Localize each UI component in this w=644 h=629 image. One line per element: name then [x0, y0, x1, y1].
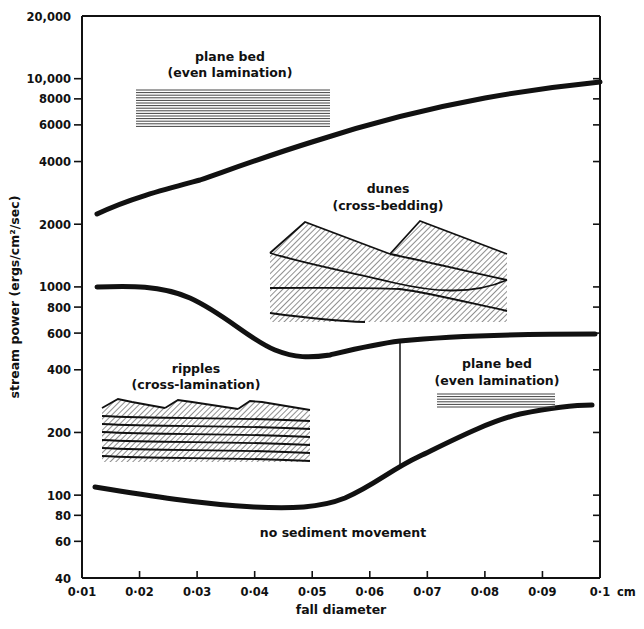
- dunes-cross-bedding-icon: [268, 218, 510, 324]
- upper-plane-bed-title: plane bed: [195, 49, 265, 64]
- y-tick-label: 2000: [39, 218, 71, 232]
- y-tick-label: 100: [47, 489, 71, 503]
- x-tick-label: 0·1: [590, 585, 610, 599]
- y-tick-label: 8000: [39, 92, 71, 106]
- y-tick-label: 10,000: [27, 72, 71, 86]
- x-tick-label: 0·09: [528, 585, 556, 599]
- region-label-lower-plane-bed: plane bed (even lamination): [435, 356, 560, 388]
- x-tick-label: 0·02: [125, 585, 153, 599]
- dunes-subtitle: (cross-bedding): [332, 198, 443, 213]
- x-axis-ticks: 0·010·020·030·040·050·060·070·080·090·1: [68, 571, 610, 599]
- x-tick-label: 0·07: [413, 585, 441, 599]
- y-tick-label: 80: [55, 509, 71, 523]
- y-tick-label: 4000: [39, 155, 71, 169]
- upper-boundary-curve: [97, 82, 600, 214]
- lower-plane-bed-subtitle: (even lamination): [435, 373, 560, 388]
- x-tick-label: 0·06: [356, 585, 384, 599]
- x-tick-label: 0·01: [68, 585, 96, 599]
- region-label-no-sediment-movement: no sediment movement: [260, 525, 426, 540]
- bedform-stability-chart: 20,00010,0008000600040002000100080060040…: [0, 0, 644, 629]
- x-tick-label: 0·08: [471, 585, 499, 599]
- region-label-upper-plane-bed: plane bed (even lamination): [168, 49, 293, 80]
- y-tick-label: 200: [47, 426, 71, 440]
- region-label-dunes: dunes (cross-bedding): [332, 181, 443, 213]
- region-label-ripples: ripples (cross-lamination): [132, 361, 261, 392]
- y-tick-label: 600: [47, 327, 71, 341]
- y-tick-label: 400: [47, 363, 71, 377]
- upper-plane-bed-lamination-icon: [136, 90, 330, 126]
- y-tick-label: 6000: [39, 118, 71, 132]
- x-tick-label: 0·04: [240, 585, 268, 599]
- x-axis-unit: cm: [617, 585, 636, 599]
- x-tick-label: 0·05: [298, 585, 326, 599]
- y-tick-label: 40: [55, 572, 71, 586]
- upper-plane-bed-subtitle: (even lamination): [168, 65, 293, 80]
- x-axis-label: fall diameter: [296, 602, 387, 617]
- lower-plane-bed-title: plane bed: [462, 356, 532, 371]
- ripples-title: ripples: [172, 361, 221, 376]
- x-tick-label: 0·03: [183, 585, 211, 599]
- ripples-cross-lamination-icon: [100, 396, 312, 464]
- y-tick-label: 800: [47, 301, 71, 315]
- y-tick-label: 60: [55, 535, 71, 549]
- y-tick-label: 20,000: [27, 10, 71, 24]
- ripples-subtitle: (cross-lamination): [132, 377, 261, 392]
- y-tick-label: 1000: [39, 280, 71, 294]
- dunes-title: dunes: [367, 181, 410, 196]
- y-axis-label: stream power (ergs/cm²/sec): [7, 196, 22, 399]
- lower-plane-bed-lamination-icon: [437, 394, 555, 407]
